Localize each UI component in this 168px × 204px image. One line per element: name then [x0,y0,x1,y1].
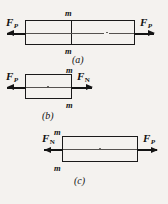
force-label-right-b: FN [77,71,89,82]
section-label-top-a: m [65,9,72,18]
force-subscript: P [14,76,18,84]
force-label-right-c: FP [143,133,155,144]
force-symbol: F [140,16,147,28]
section-label-bottom-c: m [54,164,61,173]
caption-c: (c) [74,176,85,186]
force-subscript: N [50,138,55,146]
section-label-bottom-a: m [65,47,72,56]
force-subscript: P [14,22,18,30]
force-label-left-a: FP [6,17,18,28]
center-axis-a [12,33,154,34]
force-label-left-c: FN [42,133,54,144]
section-label-top-c: m [54,128,61,137]
figure-root: FP FP m m (a) FP FN [0,0,168,204]
force-subscript: P [151,138,155,146]
force-symbol: F [143,132,150,144]
caption-b: (b) [42,111,54,121]
section-label-bottom-b: m [66,101,73,110]
section-label-top-b: m [66,66,73,75]
force-symbol: F [6,16,13,28]
force-label-left-b: FP [6,71,18,82]
center-axis-mark-c [99,148,101,150]
force-subscript: N [85,76,90,84]
panel-b: FP FN m m (b) [0,66,168,128]
force-subscript: P [148,22,152,30]
force-symbol: F [42,132,49,144]
caption-a: (a) [72,55,84,65]
panel-c: FN FP m m (c) [0,128,168,204]
force-symbol: F [6,70,13,82]
force-symbol: F [77,70,84,82]
force-label-right-a: FP [140,17,152,28]
panel-a: FP FP m m (a) [0,0,168,66]
